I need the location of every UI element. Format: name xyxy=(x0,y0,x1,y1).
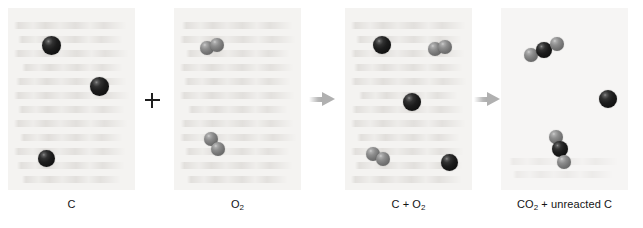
caption-text: O xyxy=(231,198,240,210)
atom-oxygen xyxy=(211,142,225,156)
caption-panel-4: CO2 + unreacted C xyxy=(501,198,628,210)
atom-carbon xyxy=(403,93,421,111)
atom-oxygen xyxy=(210,38,224,52)
reaction-figure: C O2 C + O2 CO2 + unreacted C xyxy=(0,0,643,228)
background-ghost-text xyxy=(174,8,301,190)
atom-oxygen xyxy=(438,40,452,54)
atom-carbon xyxy=(90,77,109,96)
plus-operator xyxy=(145,93,160,108)
atom-oxygen xyxy=(557,155,571,169)
arrow-head xyxy=(322,92,335,106)
panel-mixture xyxy=(345,8,472,190)
panel-reactant-carbon xyxy=(8,8,135,190)
caption-text: C + O xyxy=(391,198,421,210)
panel-products xyxy=(501,8,628,190)
caption-subscript: 2 xyxy=(240,203,245,212)
atom-carbon xyxy=(38,150,55,167)
caption-subscript: 2 xyxy=(534,203,539,212)
caption-text: CO xyxy=(517,198,534,210)
reaction-arrow-2 xyxy=(474,92,500,107)
atom-carbon xyxy=(599,90,617,108)
panel-reactant-oxygen xyxy=(174,8,301,190)
caption-text: C xyxy=(67,198,75,210)
atom-oxygen xyxy=(376,152,390,166)
arrow-head xyxy=(487,92,500,106)
caption-subscript: 2 xyxy=(421,203,426,212)
caption-panel-1: C xyxy=(8,198,135,210)
caption-tail: + unreacted C xyxy=(538,198,612,210)
caption-panel-3: C + O2 xyxy=(345,198,472,210)
atom-carbon xyxy=(441,154,458,171)
caption-panel-2: O2 xyxy=(174,198,301,210)
atom-carbon xyxy=(42,36,61,55)
atom-oxygen xyxy=(550,37,564,51)
atom-carbon xyxy=(373,36,391,54)
background-ghost-text xyxy=(8,8,135,190)
reaction-arrow-1 xyxy=(309,92,335,107)
plus-vertical-bar xyxy=(151,93,153,108)
